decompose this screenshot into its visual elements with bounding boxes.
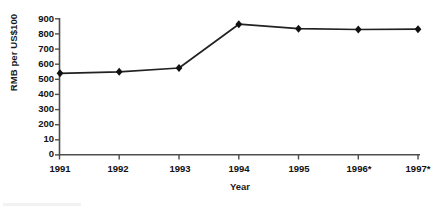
page-edge-artifact: [3, 203, 81, 206]
data-point-marker: [57, 69, 64, 77]
data-point-marker: [295, 25, 302, 33]
data-point-marker: [176, 64, 183, 72]
data-point-marker: [355, 26, 362, 34]
data-point-marker: [415, 25, 422, 33]
data-point-marker: [235, 20, 242, 28]
plot-area: [0, 0, 435, 209]
line-chart-figure: RMB per US$100 900 800 700 600 500 400 3…: [0, 0, 435, 209]
data-point-marker: [116, 68, 123, 76]
data-series-line: [60, 24, 418, 73]
